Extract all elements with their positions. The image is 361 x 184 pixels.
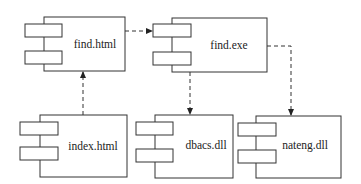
component-index-html[interactable]: index.html [20, 115, 127, 177]
component-label: find.html [74, 38, 117, 50]
component-tab-icon [136, 149, 173, 162]
component-dbacs-dll[interactable]: dbacs.dll [136, 115, 233, 178]
component-find-html[interactable]: find.html [25, 17, 125, 71]
component-find-exe[interactable]: find.exe [153, 18, 267, 72]
component-tab-icon [25, 51, 62, 64]
component-tab-icon [20, 122, 58, 135]
component-tab-icon [153, 24, 191, 37]
component-tab-icon [238, 150, 276, 163]
component-nateng-dll[interactable]: nateng.dll [238, 116, 341, 178]
component-tab-icon [25, 24, 62, 37]
component-diagram: find.html find.exe index.html dbacs.dll … [0, 0, 361, 184]
component-tab-icon [153, 52, 191, 65]
component-label: find.exe [210, 39, 247, 51]
component-tab-icon [238, 123, 276, 136]
edge-find-exe-to-nateng-dll [267, 46, 291, 115]
component-tab-icon [20, 147, 58, 160]
component-label: nateng.dll [282, 139, 328, 152]
component-tab-icon [136, 122, 173, 135]
component-label: index.html [68, 140, 118, 152]
component-label: dbacs.dll [185, 139, 226, 151]
